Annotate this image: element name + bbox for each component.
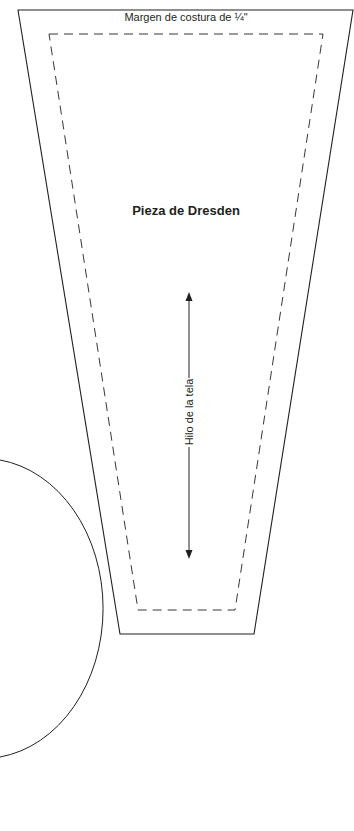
- seam-allowance-label: Margen de costura de ¼": [0, 11, 354, 23]
- arrow-up-icon: [186, 292, 193, 301]
- seam-line: [49, 34, 323, 610]
- arrow-down-icon: [186, 550, 193, 559]
- pattern-canvas: [0, 0, 354, 831]
- grain-line-label: Hilo de la tela: [183, 375, 195, 450]
- piece-title: Pieza de Dresden: [0, 203, 354, 218]
- cutting-line: [18, 10, 353, 634]
- center-circle-arc: [0, 460, 103, 757]
